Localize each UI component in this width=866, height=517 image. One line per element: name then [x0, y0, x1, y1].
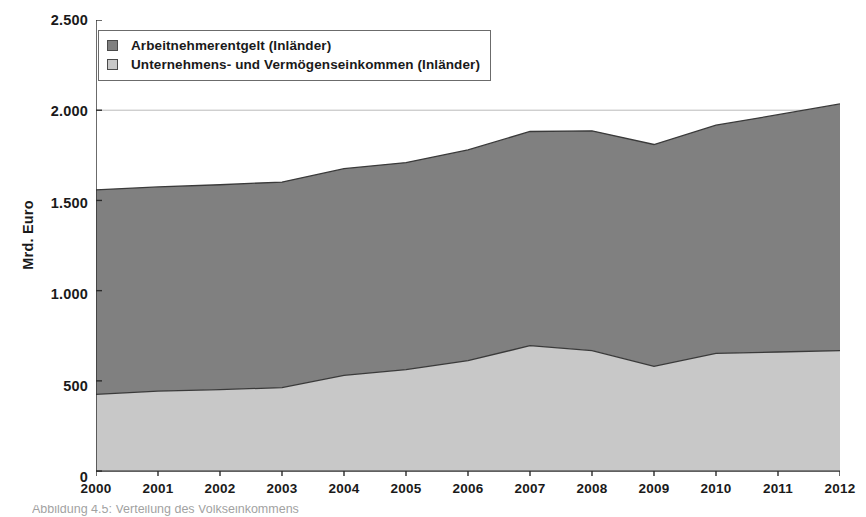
figure-caption: Abbildung 4.5: Verteilung des Volkseinko… — [32, 505, 732, 517]
legend-label: Arbeitnehmerentgelt (Inländer) — [131, 38, 331, 53]
y-axis-tick-label: 2.500 — [30, 12, 88, 28]
x-axis-tick-label: 2006 — [453, 481, 484, 496]
x-axis-tick-label: 2012 — [825, 481, 856, 496]
x-axis-tick-label: 2000 — [81, 481, 112, 496]
x-axis-tick-label: 2009 — [639, 481, 670, 496]
x-axis-tick-label: 2001 — [143, 481, 174, 496]
legend-label: Unternehmens- und Vermögenseinkommen (In… — [131, 57, 480, 72]
y-axis-tick-labels: 05001.0001.5002.0002.500 — [20, 20, 88, 477]
y-axis-tick-label: 500 — [30, 378, 88, 394]
legend-swatch-unternehmenseinkommen — [107, 59, 118, 70]
y-axis-tick-label: 1.000 — [30, 286, 88, 302]
area-band-arbeitnehmerentgelt — [96, 104, 840, 394]
x-axis-tick-labels: 2000200120022003200420052006200720082009… — [96, 481, 840, 503]
stacked-area-chart — [96, 20, 840, 477]
chart-legend: Arbeitnehmerentgelt (Inländer) Unternehm… — [98, 30, 491, 81]
figure-caption-text: Abbildung 4.5: Verteilung des Volkseinko… — [32, 505, 732, 515]
chart-figure: Mrd. Euro 05001.0001.5002.0002.500 20002… — [0, 0, 866, 517]
legend-swatch-arbeitnehmerentgelt — [107, 40, 118, 51]
y-axis-tick-label: 2.000 — [30, 103, 88, 119]
x-axis-tick-label: 2002 — [205, 481, 236, 496]
x-axis-tick-label: 2004 — [329, 481, 360, 496]
x-axis-tick-label: 2010 — [701, 481, 732, 496]
x-axis-tick-label: 2008 — [577, 481, 608, 496]
x-axis-tick-label: 2005 — [391, 481, 422, 496]
legend-item: Unternehmens- und Vermögenseinkommen (In… — [107, 55, 480, 74]
x-axis-tick-label: 2011 — [763, 481, 793, 496]
y-axis-tick-label: 1.500 — [30, 195, 88, 211]
y-axis-tick-label: 0 — [30, 469, 88, 485]
x-axis-tick-label: 2007 — [515, 481, 546, 496]
plot-area — [96, 20, 840, 477]
legend-item: Arbeitnehmerentgelt (Inländer) — [107, 36, 480, 55]
x-axis-tick-label: 2003 — [267, 481, 298, 496]
